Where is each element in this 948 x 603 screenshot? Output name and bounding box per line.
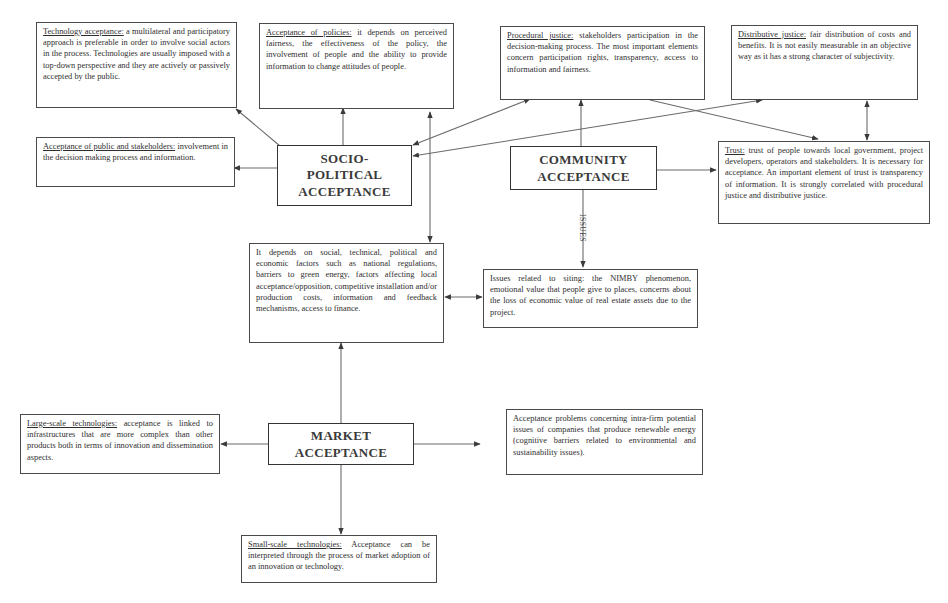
node-line: MARKET [311,427,371,444]
node-line: SOCIO- [320,151,368,168]
box-text: trust of people towards local government… [725,146,923,200]
box-text: Acceptance problems concerning intra-fir… [513,414,696,457]
acceptance-public-stakeholders-box: Acceptance of public and stakeholders: i… [36,137,235,187]
box-term: Trust: [725,146,745,155]
edge-socio-to-technology [236,109,280,146]
box-text: Issues related to siting: the NIMBY phen… [490,274,691,317]
node-line: ACCEPTANCE [537,168,629,185]
box-term: Technology acceptance: [43,27,124,36]
acceptance-diagram: ISSUES Technology acceptance: a multilat… [0,0,948,603]
box-term: Acceptance of public and stakeholders: [43,142,175,151]
box-term: Distributive justice: [738,30,806,39]
siting-issues-box: Issues related to siting: the NIMBY phen… [483,269,698,328]
trust-box: Trust: trust of people towards local gov… [718,141,930,224]
box-term: Large-scale technologies: [27,419,117,428]
box-term: Procedural justice: [507,31,573,40]
edge-label-issues: ISSUES [578,214,587,242]
large-scale-technologies-box: Large-scale technologies: acceptance is … [20,414,220,474]
box-term: Acceptance of policies: [266,28,352,37]
node-line: ACCEPTANCE [295,444,387,461]
node-line: ACCEPTANCE [298,184,390,201]
intra-firm-box: Acceptance problems concerning intra-fir… [506,409,703,475]
procedural-justice-box: Procedural justice: stakeholders partici… [500,26,705,100]
node-line: POLITICAL [307,167,383,184]
distributive-justice-box: Distributive justice: fair distribution … [731,25,918,100]
box-term: Small-scale technologies: [248,540,342,549]
factors-box: It depends on social, technical, politic… [249,243,444,343]
small-scale-technologies-box: Small-scale technologies: Acceptance can… [241,535,437,583]
edge-procedural-to-trust [650,100,818,139]
technology-acceptance-box: Technology acceptance: a multilateral an… [36,22,237,108]
community-acceptance-node: COMMUNITY ACCEPTANCE [510,146,657,190]
box-text: It depends on social, technical, politic… [256,248,437,313]
socio-political-acceptance-node: SOCIO- POLITICAL ACCEPTANCE [277,145,412,206]
node-line: COMMUNITY [539,151,628,168]
market-acceptance-node: MARKET ACCEPTANCE [268,423,414,465]
acceptance-of-policies-box: Acceptance of policies: it depends on pe… [259,23,454,109]
